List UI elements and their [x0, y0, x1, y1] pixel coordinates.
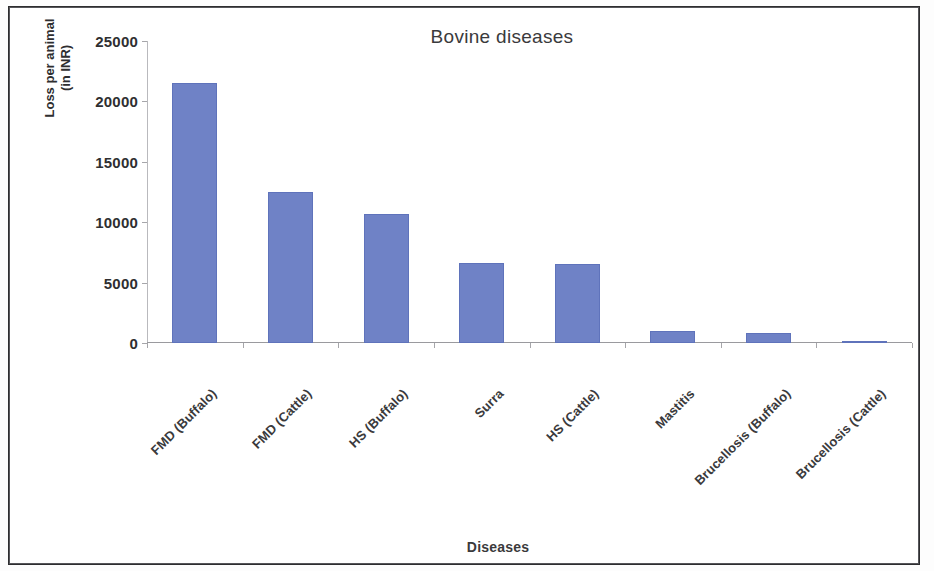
bar: [650, 331, 695, 343]
y-axis-line: [147, 41, 148, 343]
bar: [459, 263, 504, 343]
y-axis-title-line2: (in INR): [58, 0, 74, 158]
x-axis-tick-label: FMD (Buffalo): [148, 386, 220, 458]
y-axis-tick: [142, 162, 147, 163]
y-axis-title-line1: Loss per animal: [42, 0, 58, 158]
y-axis-tick: [142, 41, 147, 42]
y-axis-tick-label: 25000: [95, 33, 138, 50]
bar: [172, 83, 217, 343]
y-axis-tick-label: 5000: [104, 274, 138, 291]
x-axis-tick: [147, 343, 148, 348]
scanned-page: Bovine diseases Loss per animal (in INR)…: [0, 0, 934, 571]
bar: [555, 264, 600, 343]
x-axis-tick: [434, 343, 435, 348]
chart-frame: Bovine diseases Loss per animal (in INR)…: [8, 6, 920, 565]
y-axis-tick: [142, 283, 147, 284]
bar: [842, 341, 887, 343]
y-axis-tick: [142, 101, 147, 102]
x-axis-tick: [530, 343, 531, 348]
x-axis-title: Diseases: [10, 539, 918, 555]
x-axis-tick-label: Surra: [471, 386, 506, 421]
bar: [268, 192, 313, 343]
x-axis-tick-label: Brucellosis (Cattle): [793, 386, 889, 482]
x-axis-tick-label: Mastitis: [652, 386, 697, 431]
x-axis-tick-label: HS (Buffalo): [346, 386, 411, 451]
x-axis-title-text: Diseases: [467, 539, 529, 555]
x-axis-tick-label: FMD (Cattle): [249, 386, 315, 452]
bar: [364, 214, 409, 343]
y-axis-tick-label: 20000: [95, 93, 138, 110]
y-axis-tick-label: 10000: [95, 214, 138, 231]
x-axis-tick: [912, 343, 913, 348]
y-axis-tick-label: 15000: [95, 153, 138, 170]
y-axis-title: Loss per animal (in INR): [42, 0, 75, 158]
y-axis-tick: [142, 222, 147, 223]
x-axis-tick: [338, 343, 339, 348]
bar: [746, 333, 791, 343]
plot-area: 0500010000150002000025000 FMD (Buffalo)F…: [147, 41, 912, 343]
x-axis-tick: [243, 343, 244, 348]
x-axis-tick: [721, 343, 722, 348]
y-axis-tick-label: 0: [129, 335, 138, 352]
x-axis-tick: [625, 343, 626, 348]
x-axis-tick-label: Brucellosis (Buffalo): [691, 386, 793, 488]
x-axis-tick: [816, 343, 817, 348]
x-axis-tick-label: HS (Cattle): [544, 386, 602, 444]
